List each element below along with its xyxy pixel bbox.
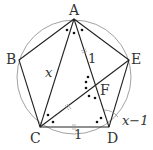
equal-tick-marks [65,49,87,130]
label-d: D [107,130,118,146]
diagonal-ce [40,60,129,127]
label-f: F [100,82,110,98]
angle-dots [47,29,103,124]
label-e: E [131,51,141,67]
label-b: B [6,51,16,67]
label-segment-fd: x−1 [122,113,149,128]
label-c: C [30,130,41,146]
label-a: A [68,2,80,18]
label-segment-ac: x [45,65,53,80]
circumscribed-circle [17,20,131,134]
label-segment-af: 1 [88,51,96,66]
pentagon-diagram: A B C D E F x 1 1 x−1 [0,0,153,150]
label-segment-cd: 1 [74,127,82,142]
diagonal-ad [74,19,109,127]
